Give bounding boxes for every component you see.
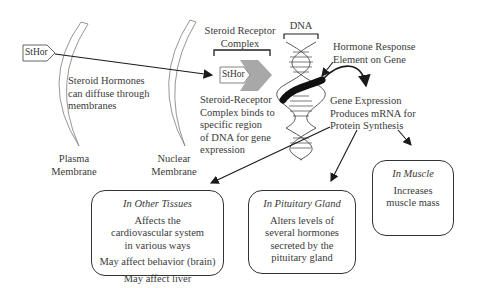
binding-line4: of DNA for gene bbox=[200, 132, 280, 145]
gene-line2: Produces mRNA for bbox=[330, 108, 420, 121]
dna-label: DNA bbox=[284, 20, 318, 33]
receptor-complex-label: Steroid Receptor Complex bbox=[200, 25, 280, 50]
gene-expression-curve-arrow bbox=[324, 66, 366, 86]
binding-line5: expression bbox=[200, 144, 280, 157]
pituitary-line1: Alters levels of several hormones secret… bbox=[259, 215, 345, 265]
other-tissues-title: In Other Tissues bbox=[98, 198, 217, 211]
diffuse-line3: membranes bbox=[68, 100, 168, 113]
nuclear-membrane-shape bbox=[169, 20, 196, 146]
dna-bracket bbox=[284, 34, 318, 39]
hormone-response-element-shape bbox=[283, 80, 322, 100]
diffuse-line2: can diffuse through bbox=[68, 88, 168, 101]
pituitary-box: In Pituitary Gland Alters levels of seve… bbox=[248, 190, 356, 274]
plasma-label-line1: Plasma bbox=[44, 153, 104, 166]
receptor-label-line1: Steroid Receptor bbox=[200, 25, 280, 38]
plasma-label-line2: Membrane bbox=[44, 166, 104, 179]
other-tissues-line1: Affects the cardiovascular system in var… bbox=[98, 215, 217, 253]
other-tissues-line2: May affect behavior (brain) bbox=[98, 256, 217, 269]
arrow-to-pituitary bbox=[331, 130, 357, 181]
hormone-tag-label: StHor bbox=[25, 47, 48, 57]
binding-text: Steroid-Receptor Complex binds to specif… bbox=[200, 94, 280, 157]
hre-line2: Element on Gene bbox=[333, 54, 423, 67]
hre-line1: Hormone Response bbox=[333, 41, 423, 54]
gene-line3: Protein Synthesis bbox=[330, 120, 420, 133]
muscle-line1: Increases muscle mass bbox=[379, 185, 447, 210]
receptor-label-line2: Complex bbox=[200, 38, 280, 51]
diffuse-line1: Steroid Hormones bbox=[68, 75, 168, 88]
nuclear-label-line2: Membrane bbox=[144, 166, 204, 179]
other-tissues-line3: May affect liver bbox=[98, 273, 217, 286]
gene-expression-text: Gene Expression Produces mRNA for Protei… bbox=[330, 95, 420, 133]
diffuse-text: Steroid Hormones can diffuse through mem… bbox=[68, 75, 168, 113]
nuclear-label-line1: Nuclear bbox=[144, 153, 204, 166]
binding-line2: Complex binds to bbox=[200, 107, 280, 120]
binding-line1: Steroid-Receptor bbox=[200, 94, 280, 107]
binding-line3: specific region bbox=[200, 119, 280, 132]
plasma-membrane-label: Plasma Membrane bbox=[44, 153, 104, 178]
hormone-tag-inner-label: StHor bbox=[222, 69, 245, 79]
pituitary-title: In Pituitary Gland bbox=[259, 198, 345, 211]
hre-text: Hormone Response Element on Gene bbox=[333, 41, 423, 66]
other-tissues-box: In Other Tissues Affects the cardiovascu… bbox=[91, 190, 224, 276]
diffusion-arrow bbox=[55, 54, 212, 75]
gene-line1: Gene Expression bbox=[330, 95, 420, 108]
nuclear-membrane-label: Nuclear Membrane bbox=[144, 153, 204, 178]
muscle-box: In Muscle Increases muscle mass bbox=[372, 160, 454, 236]
muscle-title: In Muscle bbox=[379, 168, 447, 181]
receptor-bracket bbox=[214, 50, 270, 56]
